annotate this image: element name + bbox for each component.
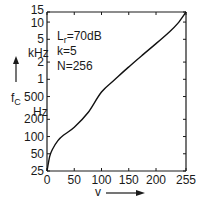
- y-tick-label: 10: [31, 16, 45, 30]
- param-k: k=5: [57, 44, 77, 58]
- chart: 25501002005001251015 050100150200255 kHz…: [0, 0, 207, 203]
- param-lr: Lr=70dB: [57, 29, 102, 45]
- param-n: N=256: [57, 59, 93, 73]
- y-axis-symbol: fC: [11, 91, 21, 107]
- y-tick-label: 1: [37, 72, 44, 86]
- y-axis-ticks: 25501002005001251015: [24, 3, 186, 178]
- x-tick-label: 200: [146, 173, 166, 187]
- y-tick-label: 500: [24, 90, 44, 104]
- y-tick-label: 15: [31, 3, 45, 17]
- x-tick-label: 150: [119, 173, 139, 187]
- y-tick-label: 5: [37, 32, 44, 46]
- x-axis-arrow-icon: [106, 190, 145, 196]
- x-axis-symbol: v: [95, 185, 101, 199]
- x-tick-label: 255: [176, 173, 196, 187]
- y-tick-label: 25: [31, 164, 45, 178]
- y-axis-arrow-icon: [13, 56, 19, 82]
- y-units-hz: Hz: [33, 105, 48, 119]
- x-tick-label: 50: [68, 173, 82, 187]
- y-tick-label: 50: [31, 147, 45, 161]
- x-tick-label: 0: [44, 173, 51, 187]
- parameter-annotation: Lr=70dB k=5 N=256: [57, 29, 102, 73]
- y-tick-label: 100: [24, 130, 44, 144]
- y-units-khz: kHz: [28, 46, 49, 60]
